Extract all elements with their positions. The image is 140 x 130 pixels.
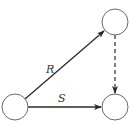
node-bottom-left: [2, 94, 28, 120]
edge-s-label: S: [58, 92, 66, 105]
edge-r-arrow: [25, 31, 104, 99]
edge-r-label: R: [45, 63, 54, 76]
node-bottom-right: [102, 94, 128, 120]
node-top-right: [102, 9, 128, 35]
commutative-diagram: R S: [0, 0, 140, 130]
